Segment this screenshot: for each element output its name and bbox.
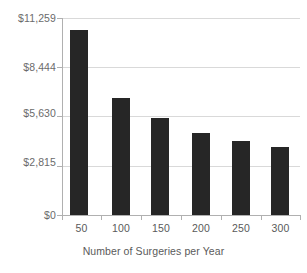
y-axis-tick-label-1: $8,444 xyxy=(2,62,56,73)
x-axis-tick-mark-6 xyxy=(300,215,301,220)
x-axis-tick-label-5: 300 xyxy=(261,223,300,234)
x-axis-tick-label-3: 200 xyxy=(181,223,221,234)
x-axis-tick-mark-0 xyxy=(62,215,63,220)
x-axis-tick-label-2: 150 xyxy=(141,223,181,234)
y-axis-tick-label-4: $0 xyxy=(2,210,56,221)
bar-100 xyxy=(112,98,130,215)
x-axis-title: Number of Surgeries per Year xyxy=(0,246,307,257)
y-axis-tick-label-2: $5,630 xyxy=(2,108,56,119)
y-axis-labels: $11,259 $8,444 $5,630 $2,815 $0 xyxy=(0,0,56,273)
x-axis-tick-label-1: 100 xyxy=(101,223,141,234)
x-axis-tick-mark-3 xyxy=(181,215,182,220)
gridline-2815 xyxy=(62,166,300,167)
x-axis-tick-mark-1 xyxy=(101,215,102,220)
gridline-8444 xyxy=(62,67,300,68)
x-axis-tick-mark-4 xyxy=(221,215,222,220)
x-axis-tick-mark-2 xyxy=(141,215,142,220)
bar-50 xyxy=(70,30,88,215)
bar-chart: $11,259 $8,444 $5,630 $2,815 $0 50 100 1… xyxy=(0,0,307,273)
y-axis-tick-label-0: $11,259 xyxy=(2,13,56,24)
gridline-11259 xyxy=(62,18,300,19)
gridline-5630 xyxy=(62,116,300,117)
bar-250 xyxy=(232,141,250,215)
bar-200 xyxy=(192,133,210,215)
y-axis-tick-label-3: $2,815 xyxy=(2,157,56,168)
x-axis-tick-label-4: 250 xyxy=(221,223,261,234)
bar-300 xyxy=(271,147,289,215)
y-axis-line xyxy=(62,18,63,216)
bar-150 xyxy=(151,118,169,215)
x-axis-tick-label-0: 50 xyxy=(62,223,101,234)
plot-area xyxy=(62,18,300,215)
x-axis-tick-mark-5 xyxy=(261,215,262,220)
